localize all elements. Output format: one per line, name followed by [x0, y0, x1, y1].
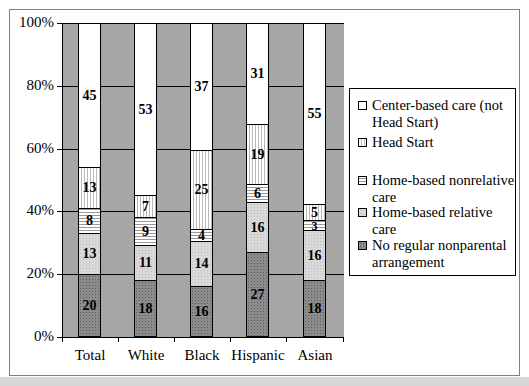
value-label: 25	[195, 183, 209, 197]
legend-swatch-head-start-icon	[358, 138, 367, 147]
legend-label: Home-based relative care	[372, 204, 517, 238]
segment-nonrelative-care: 4	[190, 229, 213, 242]
value-label: 14	[195, 257, 209, 271]
legend-swatch-relative-icon	[358, 208, 367, 217]
segment-nonrelative-care: 3	[303, 220, 326, 231]
bar-total: 20 13 8 13 45	[78, 23, 101, 337]
x-tick	[286, 337, 287, 342]
segment-relative-care: 16	[303, 230, 326, 281]
value-label: 7	[142, 200, 149, 214]
value-label: 20	[83, 299, 97, 313]
value-label: 6	[254, 187, 261, 201]
x-axis	[62, 337, 344, 338]
segment-head-start: 19	[246, 124, 269, 185]
legend-swatch-no-arrangement-icon	[358, 241, 367, 250]
y-label-60: 60%	[10, 140, 54, 157]
value-label: 53	[139, 103, 153, 117]
x-label-white: White	[116, 347, 176, 364]
segment-center-based: 53	[134, 23, 157, 196]
segment-relative-care: 11	[134, 245, 157, 281]
y-label-80: 80%	[10, 77, 54, 94]
value-label: 8	[86, 214, 93, 228]
value-label: 4	[198, 229, 205, 243]
y-label-100: 100%	[10, 14, 54, 31]
x-label-black: Black	[172, 347, 232, 364]
legend-label: No regular nonparental arrangement	[372, 237, 517, 271]
segment-relative-care: 14	[190, 241, 213, 287]
y-tick	[57, 274, 62, 275]
x-tick	[118, 337, 119, 342]
x-label-total: Total	[60, 347, 120, 364]
y-label-0: 0%	[10, 328, 54, 345]
value-label: 13	[83, 181, 97, 195]
segment-center-based: 37	[190, 23, 213, 151]
segment-nonrelative-care: 6	[246, 184, 269, 203]
segment-no-arrangement: 16	[190, 286, 213, 337]
x-tick	[343, 337, 344, 342]
legend-label: Center-based care (not Head Start)	[372, 97, 517, 131]
legend-label: Head Start	[372, 134, 517, 151]
segment-relative-care: 13	[78, 233, 101, 275]
segment-head-start: 5	[303, 204, 326, 221]
segment-no-arrangement: 27	[246, 252, 269, 337]
legend: Center-based care (not Head Start) Head …	[349, 88, 516, 276]
segment-nonrelative-care: 8	[78, 208, 101, 234]
value-label: 37	[195, 80, 209, 94]
x-tick	[174, 337, 175, 342]
value-label: 16	[308, 249, 322, 263]
y-tick	[57, 86, 62, 87]
value-label: 18	[139, 302, 153, 316]
segment-center-based: 31	[246, 23, 269, 125]
segment-head-start: 13	[78, 167, 101, 209]
value-label: 16	[195, 305, 209, 319]
value-label: 19	[251, 148, 265, 162]
y-tick	[57, 211, 62, 212]
value-label: 18	[308, 302, 322, 316]
legend-swatch-nonrelative-icon	[358, 176, 367, 185]
value-label: 16	[251, 221, 265, 235]
segment-center-based: 55	[303, 23, 326, 205]
segment-nonrelative-care: 9	[134, 217, 157, 246]
x-tick	[62, 337, 63, 342]
value-label: 11	[139, 256, 152, 270]
value-label: 5	[311, 206, 318, 220]
x-tick	[230, 337, 231, 342]
x-label-asian: Asian	[285, 347, 345, 364]
value-label: 13	[83, 247, 97, 261]
x-label-hispanic: Hispanic	[228, 347, 288, 364]
value-label: 3	[312, 220, 318, 232]
y-label-40: 40%	[10, 202, 54, 219]
bottom-strip	[0, 377, 529, 386]
segment-head-start: 25	[190, 150, 213, 230]
value-label: 27	[251, 288, 265, 302]
bar-asian: 18 16 3 5 55	[303, 23, 326, 337]
value-label: 31	[251, 67, 265, 81]
segment-relative-care: 16	[246, 202, 269, 253]
bar-white: 18 11 9 7 53	[134, 23, 157, 337]
bar-black: 16 14 4 25 37	[190, 23, 213, 337]
y-label-20: 20%	[10, 265, 54, 282]
y-tick	[57, 149, 62, 150]
bar-hispanic: 27 16 6 19 31	[246, 23, 269, 337]
segment-center-based: 45	[78, 23, 101, 168]
legend-label: Home-based nonrelative care	[372, 172, 517, 206]
legend-swatch-center-based-icon	[358, 101, 367, 110]
segment-head-start: 7	[134, 195, 157, 218]
y-tick	[57, 23, 62, 24]
segment-no-arrangement: 20	[78, 274, 101, 337]
value-label: 45	[83, 89, 97, 103]
value-label: 55	[308, 107, 322, 121]
value-label: 9	[142, 225, 149, 239]
segment-no-arrangement: 18	[303, 280, 326, 337]
segment-no-arrangement: 18	[134, 280, 157, 337]
